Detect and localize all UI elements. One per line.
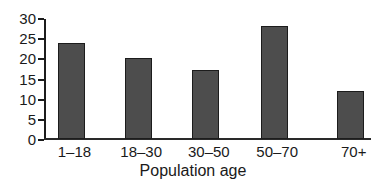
bar-chart-figure: 051015202530 1–1818–3030–5050–7070+ Popu… — [0, 0, 381, 193]
x-category-label: 50–70 — [256, 144, 298, 160]
y-axis — [44, 19, 46, 140]
bar-18–30 — [125, 58, 152, 139]
y-tick-mark — [38, 119, 44, 121]
y-tick-label: 25 — [0, 31, 36, 47]
bar-1–18 — [58, 43, 85, 139]
y-tick-mark — [38, 58, 44, 60]
x-category-label: 70+ — [341, 144, 366, 160]
x-category-label: 30–50 — [188, 144, 230, 160]
bar-50–70 — [261, 26, 288, 139]
y-tick-label: 10 — [0, 92, 36, 108]
y-tick-label: 30 — [0, 11, 36, 27]
plot-area: 051015202530 1–1818–3030–5050–7070+ — [44, 19, 371, 140]
bar-70+ — [337, 91, 364, 139]
x-category-label: 18–30 — [120, 144, 162, 160]
x-axis-title: Population age — [140, 162, 247, 180]
y-tick-mark — [38, 79, 44, 81]
y-tick-label: 0 — [0, 132, 36, 148]
y-tick-mark — [38, 99, 44, 101]
y-tick-label: 5 — [0, 112, 36, 128]
x-category-label: 1–18 — [58, 144, 91, 160]
y-tick-mark — [38, 139, 44, 141]
bar-30–50 — [192, 70, 219, 139]
y-tick-mark — [38, 38, 44, 40]
y-tick-label: 20 — [0, 51, 36, 67]
y-tick-label: 15 — [0, 72, 36, 88]
y-tick-mark — [38, 18, 44, 20]
